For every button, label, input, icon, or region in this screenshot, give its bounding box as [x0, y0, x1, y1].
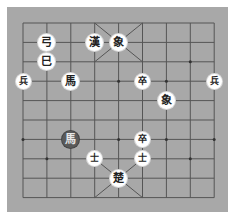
piece-light-13[interactable]: 楚	[110, 170, 127, 187]
piece-light-7[interactable]: 兵	[207, 74, 222, 89]
xiangqi-board[interactable]: 弓巳漢象兵馬卒兵象馬卒士士楚	[7, 7, 228, 212]
piece-light-8[interactable]: 象	[158, 92, 175, 109]
piece-light-10[interactable]: 卒	[135, 132, 150, 147]
piece-light-4[interactable]: 兵	[16, 74, 31, 89]
piece-light-5[interactable]: 馬	[62, 73, 79, 90]
piece-light-6[interactable]: 卒	[135, 74, 150, 89]
piece-light-3[interactable]: 象	[110, 34, 127, 51]
piece-light-2[interactable]: 漢	[86, 34, 103, 51]
